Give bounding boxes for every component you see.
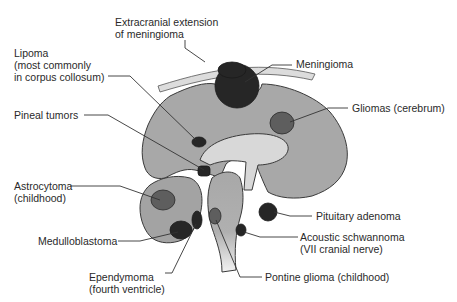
label-acoustic: Acoustic schwannoma (VII cranial nerve) — [300, 231, 404, 255]
label-ependymoma: Ependymoma (fourth ventricle) — [89, 271, 165, 295]
leader-extracranial — [185, 40, 205, 62]
extracranial-meningioma-tumor — [218, 62, 246, 78]
leader-pituitary — [274, 212, 312, 216]
ependymoma-tumor — [192, 211, 202, 229]
label-line: (fourth ventricle) — [89, 283, 165, 295]
label-pineal: Pineal tumors — [14, 109, 78, 121]
label-pontine: Pontine glioma (childhood) — [265, 271, 389, 283]
label-extracranial: Extracranial extension of meningioma — [115, 16, 218, 40]
label-medulloblastoma: Medulloblastoma — [38, 235, 117, 247]
label-astrocytoma: Astrocytoma (childhood) — [14, 180, 72, 204]
medulloblastoma-tumor — [170, 221, 192, 239]
label-line: Lipoma — [14, 47, 104, 59]
label-line: of meningioma — [115, 28, 218, 40]
label-line: (VII cranial nerve) — [300, 243, 404, 255]
glioma-tumor — [270, 112, 294, 134]
astrocytoma-tumor — [151, 190, 175, 210]
label-line: Ependymoma — [89, 271, 165, 283]
label-meningioma: Meningioma — [296, 58, 353, 70]
brain-tumor-diagram — [0, 0, 457, 302]
pontine-glioma-tumor — [209, 208, 221, 224]
label-gliomas: Gliomas (cerebrum) — [352, 102, 445, 114]
label-line: Astrocytoma — [14, 180, 72, 192]
label-pituitary: Pituitary adenoma — [316, 210, 401, 222]
leader-acoustic — [244, 232, 298, 237]
label-lipoma: Lipoma (most commonly in corpus collosum… — [14, 47, 104, 83]
acoustic-schwannoma-tumor — [236, 224, 246, 236]
label-line: Extracranial extension — [115, 16, 218, 28]
label-line: (most commonly — [14, 59, 104, 71]
label-line: Acoustic schwannoma — [300, 231, 404, 243]
label-line: (childhood) — [14, 192, 72, 204]
label-line: in corpus collosum) — [14, 71, 104, 83]
